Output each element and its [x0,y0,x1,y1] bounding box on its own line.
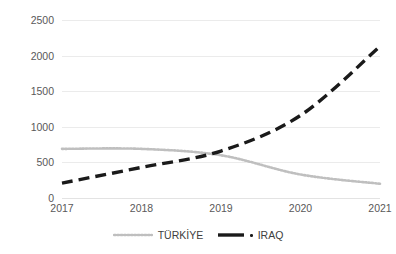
gridline-0-axis [62,198,380,199]
plot-area [62,20,380,198]
x-axis-tick-label: 2017 [50,203,73,214]
x-axis-tick-label: 2019 [209,203,232,214]
legend-item-turkiye[interactable]: TÜRKİYE [113,230,204,241]
legend-marker-dot-icon [250,234,253,237]
line-chart: 2500 2000 1500 1000 500 0 2017 2018 2019… [0,0,396,254]
series-line-turkiye [62,148,380,183]
x-axis-tick-label: 2018 [130,203,153,214]
series-container [62,20,380,198]
legend-swatch-dotted-line-icon [113,231,153,239]
y-axis-tick-label: 1000 [8,122,54,133]
y-axis-tick-label: 1500 [8,86,54,97]
legend-item-iraq[interactable]: IRAQ [217,230,283,241]
legend-label-iraq: IRAQ [258,230,284,241]
chart-legend: TÜRKİYE IRAQ [0,230,396,241]
x-axis: 2017 2018 2019 2020 2021 [62,203,380,219]
y-axis-tick-label: 0 [8,193,54,204]
x-axis-tick-label: 2020 [289,203,312,214]
series-line-iraq [62,46,380,183]
y-axis-tick-label: 500 [8,157,54,168]
x-axis-tick-label: 2021 [368,203,391,214]
legend-swatch-dashed-line-icon [217,231,245,239]
y-axis-tick-label: 2500 [8,15,54,26]
y-axis-tick-label: 2000 [8,50,54,61]
legend-label-turkiye: TÜRKİYE [158,230,204,241]
